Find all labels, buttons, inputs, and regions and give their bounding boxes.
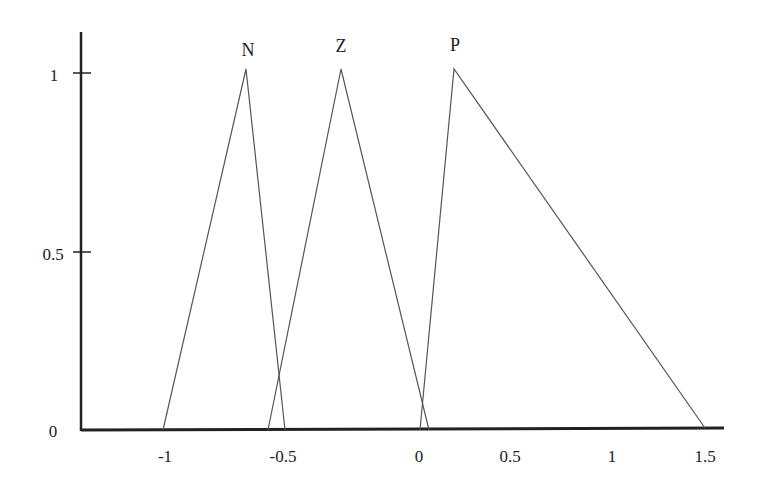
y-tick-label-0: 0 — [49, 422, 58, 441]
x-tick-label-neg1: -1 — [158, 447, 172, 466]
y-tick-label-0.5: 0.5 — [42, 245, 63, 264]
mf-label-n: N — [242, 40, 255, 60]
x-tick-label-0: 0 — [415, 447, 424, 466]
x-axis — [81, 428, 724, 430]
mf-label-z: Z — [336, 36, 347, 56]
x-tick-label-1.5: 1.5 — [694, 447, 715, 466]
mf-p — [420, 69, 705, 430]
y-tick-label-1: 1 — [50, 66, 59, 85]
mf-label-p: P — [450, 35, 460, 55]
x-tick-label-neg0.5: -0.5 — [270, 447, 297, 466]
x-tick-label-0.5: 0.5 — [499, 447, 520, 466]
membership-function-chart: 1 0.5 0 -1 -0.5 0 0.5 1 1.5 N Z P — [0, 0, 761, 486]
mf-z — [268, 69, 429, 430]
x-tick-label-1: 1 — [608, 447, 617, 466]
mf-n — [163, 69, 285, 430]
